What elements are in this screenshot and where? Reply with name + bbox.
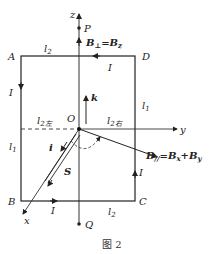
diagram-canvas: z P B⊥=Bz A D B C l2 I I l1 l1 l2左 l2右 O…: [0, 0, 218, 254]
b-corner-label: B: [7, 196, 15, 207]
origin-label: O: [67, 113, 75, 124]
q-label: Q: [85, 219, 93, 230]
figure-caption: 图 2: [102, 239, 122, 250]
origin-point: [77, 127, 81, 131]
k-label: k: [91, 92, 98, 103]
l2-top-label: l2: [44, 43, 52, 56]
current-top-label: I: [107, 62, 113, 73]
point-q: [77, 222, 81, 226]
angle-arc: [71, 137, 100, 149]
current-right-label: I: [138, 167, 144, 178]
c-label: C: [139, 196, 147, 207]
i-label: i: [49, 142, 53, 153]
l2-bottom-label: l2: [108, 206, 116, 219]
b-parallel-label: B//=Bx+By: [145, 150, 202, 163]
x-axis-label: x: [24, 215, 30, 226]
a-label: A: [7, 51, 15, 62]
angle-arrow-icon: [97, 137, 100, 141]
l2-left-seg-label: l2左: [37, 115, 53, 128]
l1-right-label: l1: [142, 100, 150, 113]
s-label: S: [64, 166, 71, 177]
z-axis-label: z: [69, 9, 76, 20]
current-bottom-label: I: [50, 205, 56, 216]
s-arrow-icon: [48, 180, 52, 186]
l1-left-label: l1: [9, 141, 17, 154]
current-left-label: I: [8, 87, 14, 98]
p-label: P: [83, 23, 91, 34]
l2-right-seg-label: l2右: [107, 115, 123, 128]
d-label: D: [141, 51, 150, 62]
b-perp-label: B⊥=Bz: [85, 37, 123, 50]
y-axis-label: y: [179, 124, 186, 135]
point-p: [77, 26, 81, 30]
